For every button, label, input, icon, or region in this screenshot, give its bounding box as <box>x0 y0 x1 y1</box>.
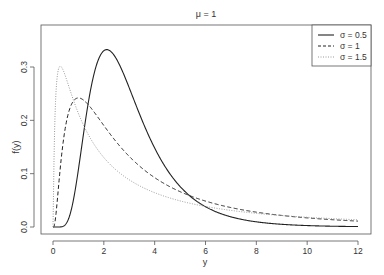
x-tick-label: 4 <box>152 246 157 256</box>
curve-dashed <box>53 98 358 227</box>
y-tick-label: 0.3 <box>19 61 29 73</box>
y-tick-label: 0.2 <box>19 114 29 126</box>
x-tick-label: 2 <box>101 246 106 256</box>
legend-label-sigma-1: σ = 1 <box>340 41 360 51</box>
legend: σ = 0.5 σ = 1 σ = 1.5 <box>312 25 371 66</box>
density-curves <box>53 50 358 227</box>
y-tick-label: 0.0 <box>19 221 29 233</box>
x-tick-label: 10 <box>302 246 312 256</box>
x-tick-label: 6 <box>203 246 208 256</box>
x-tick-label: 8 <box>254 246 259 256</box>
legend-label-sigma-1-5: σ = 1.5 <box>340 52 367 62</box>
y-tick-label: 0.1 <box>19 167 29 179</box>
lognormal-density-chart: μ = 1 024681012 0.00.10.20.3 y f(y) σ = … <box>0 0 384 275</box>
x-axis-label: y <box>203 257 208 267</box>
x-tick-label: 0 <box>51 246 56 256</box>
curve-dotted <box>53 66 358 227</box>
curve-solid <box>53 50 358 227</box>
y-axis-label: f(y) <box>11 141 21 154</box>
x-axis: 024681012 <box>51 241 363 256</box>
x-tick-label: 12 <box>353 246 363 256</box>
y-axis: 0.00.10.20.3 <box>19 61 34 233</box>
legend-label-sigma-0-5: σ = 0.5 <box>340 30 367 40</box>
chart-title: μ = 1 <box>196 9 216 19</box>
